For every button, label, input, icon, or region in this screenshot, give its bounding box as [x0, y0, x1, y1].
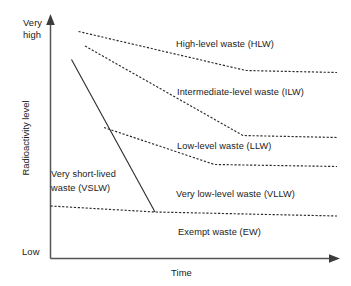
annotation-very-short-lived-waste-line1: Very short-lived — [51, 169, 116, 180]
annotation-exempt-waste: Exempt waste (EW) — [178, 227, 261, 238]
x-axis-arrowhead — [329, 254, 340, 263]
curve-very-low-level-waste — [51, 206, 338, 216]
y-axis-arrowhead — [46, 14, 55, 25]
annotation-intermediate-level-waste: Intermediate-level waste (ILW) — [177, 87, 304, 98]
annotation-very-low-level-waste: Very low-level waste (VLLW) — [176, 189, 295, 200]
y-axis-bottom-label: Low — [22, 246, 40, 257]
radioactivity-waste-classification-chart: Very high Low Radioactivity level Time H… — [0, 0, 351, 286]
x-axis-title: Time — [171, 267, 192, 278]
y-axis-top-label-line1: Very — [23, 17, 42, 28]
y-axis-title: Radioactivity level — [20, 88, 32, 188]
curve-high-level-waste — [79, 32, 338, 73]
annotation-low-level-waste: Low-level waste (LLW) — [177, 141, 271, 152]
annotation-very-short-lived-waste-line2: waste (VSLW) — [51, 183, 110, 194]
y-axis-top-label-line2: high — [23, 29, 41, 40]
annotation-high-level-waste: High-level waste (HLW) — [176, 39, 274, 50]
